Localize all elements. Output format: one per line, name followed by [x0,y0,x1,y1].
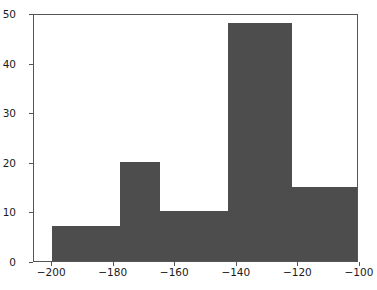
histogram-bar [228,23,293,261]
histogram-bar [120,162,160,261]
y-axis-tick-mark [29,262,33,263]
histogram-bar [52,226,120,261]
x-axis-tick-label: −120 [283,267,312,278]
histogram-figure: 01020304050 −200−180−160−140−120−100 [0,0,377,290]
y-axis-tick-label: 30 [3,108,16,118]
y-axis-tick-label: 40 [3,59,16,69]
plot-area [34,15,357,261]
x-axis-tick-label: −180 [98,267,127,278]
plot-axes [33,14,358,262]
x-axis-tick-mark [297,262,298,266]
histogram-bar [292,187,357,261]
x-axis-tick-mark [51,262,52,266]
x-axis-tick-label: −140 [221,267,250,278]
y-axis-tick-label: 0 [9,257,16,267]
x-axis-tick-mark [174,262,175,266]
histogram-bar [160,211,228,261]
x-axis-tick-label: −160 [160,267,189,278]
x-axis-tick-label: −200 [37,267,66,278]
x-axis-tick-mark [113,262,114,266]
x-axis-tick-mark [236,262,237,266]
x-axis-tick-mark [359,262,360,266]
y-axis-tick-label: 20 [3,158,16,168]
y-axis-tick-label: 50 [3,9,16,19]
x-axis-tick-label: −100 [345,267,374,278]
y-axis-tick-label: 10 [3,207,16,217]
